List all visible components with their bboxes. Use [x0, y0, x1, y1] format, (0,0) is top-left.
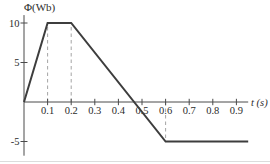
x-axis-label: t (s): [251, 97, 268, 109]
x-tick-label: 0.4: [112, 105, 126, 116]
flux-vs-time-figure: 0.10.20.30.40.50.60.70.80.9 105-5 Φ(Wb) …: [0, 0, 270, 164]
x-tick-label: 0.9: [230, 105, 243, 116]
y-tick-label: 5: [14, 57, 19, 68]
x-tick-label: 0.8: [206, 105, 219, 116]
dashed-guides: [48, 23, 166, 142]
y-axis-label: Φ(Wb): [24, 1, 56, 14]
x-tick-label: 0.7: [183, 105, 196, 116]
chart-canvas: 0.10.20.30.40.50.60.70.80.9 105-5 Φ(Wb) …: [0, 0, 270, 164]
x-tick-label: 0.3: [88, 105, 101, 116]
y-tick-label: -5: [11, 136, 20, 147]
page-edge-line: [0, 161, 270, 162]
x-tick-label: 0.1: [41, 105, 54, 116]
flux-curve: [24, 23, 248, 142]
y-tick-label: 10: [9, 18, 20, 29]
x-tick-label: 0.2: [65, 105, 78, 116]
y-axis-ticks: 105-5: [9, 18, 28, 148]
x-tick-label: 0.6: [159, 105, 172, 116]
